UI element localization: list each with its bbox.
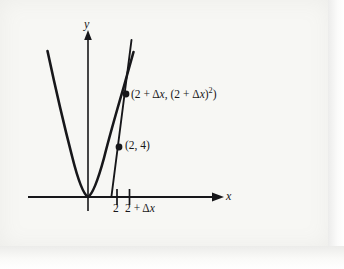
point-label-seg-2: , (2 + Δ	[165, 88, 200, 100]
tick-label-2-plus-delta-x: 2 + Δx	[125, 203, 155, 215]
point-label-2-4: (2, 4)	[125, 140, 150, 152]
tick-label-var: x	[150, 202, 155, 214]
point-marker-2-plus-delta-x	[123, 91, 130, 98]
point-label-seg-1: (2 + Δ	[131, 88, 160, 100]
tick-label-2: 2	[113, 203, 119, 215]
y-axis	[84, 30, 92, 211]
point-label-seg-4: )	[213, 88, 217, 100]
figure-container: y x (2, 4) (2 + Δx, (2 + Δx)2) 2 2 + Δx	[0, 0, 344, 269]
point-marker-2-4	[116, 144, 123, 151]
plot-canvas	[0, 0, 344, 269]
y-axis-arrowhead-icon	[84, 30, 92, 40]
x-axis	[28, 193, 224, 202]
x-axis-label: x	[226, 190, 231, 202]
x-axis-arrowhead-icon	[212, 193, 224, 202]
point-label-2-plus-delta-x: (2 + Δx, (2 + Δx)2)	[131, 87, 217, 100]
tick-label-text: 2 + Δ	[125, 202, 150, 214]
y-axis-label: y	[84, 18, 89, 30]
